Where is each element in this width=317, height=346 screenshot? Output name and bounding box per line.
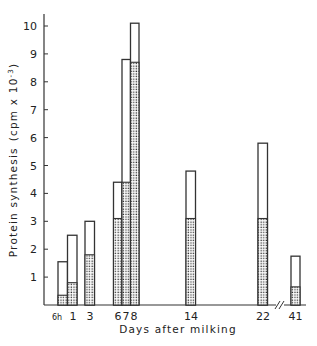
x-tick-label: 41: [289, 310, 303, 323]
y-tick-label: 4: [30, 187, 37, 200]
x-tick-label: 6h: [52, 313, 62, 322]
bar-dotted: [186, 219, 196, 305]
bar-dotted: [68, 283, 78, 305]
y-tick-label: 9: [30, 48, 37, 61]
bar-dotted: [258, 219, 268, 305]
y-tick-label: 2: [30, 243, 37, 256]
x-tick-label: 14: [184, 310, 198, 323]
y-tick-label: 5: [30, 160, 37, 173]
bar-dotted: [58, 295, 68, 305]
y-tick-label: 3: [30, 215, 37, 228]
bar-group-6h: [58, 262, 68, 305]
bar-group-41: [291, 256, 300, 305]
y-axis-title: Protein synthesis(cpm x 10-3): [7, 63, 19, 258]
bar-group-1: [68, 235, 78, 305]
bar-dotted: [122, 182, 131, 305]
x-tick-label: 6: [115, 310, 122, 323]
y-tick-label: 8: [30, 76, 37, 89]
bar-group-7: [122, 59, 131, 305]
x-tick-label: 1: [70, 310, 77, 323]
bar-dotted: [85, 255, 95, 305]
bar-dotted: [114, 219, 123, 305]
bar-dotted: [291, 287, 300, 305]
y-tick-label: 1: [30, 271, 37, 284]
axis-break-icon: [275, 300, 284, 310]
bar-group-22: [258, 143, 268, 305]
bars: [58, 23, 300, 305]
x-tick-label: 7: [123, 310, 130, 323]
x-tick-label: 22: [256, 310, 270, 323]
bar-dotted: [131, 62, 140, 305]
bar-group-6: [114, 182, 123, 305]
x-tick-label: 3: [87, 310, 94, 323]
bar-group-3: [85, 221, 95, 305]
y-tick-label: 6: [30, 132, 37, 145]
bar-group-14: [186, 171, 196, 305]
x-tick-label: 8: [131, 310, 138, 323]
y-tick-label: 10: [23, 20, 37, 33]
bar-chart: 12345678910 6h13678142241 Days after mil…: [0, 0, 317, 346]
x-axis-title: Days after milking: [119, 323, 237, 335]
bar-group-8: [131, 23, 140, 305]
y-tick-label: 7: [30, 104, 37, 117]
x-tick-labels: 6h13678142241: [52, 310, 303, 323]
